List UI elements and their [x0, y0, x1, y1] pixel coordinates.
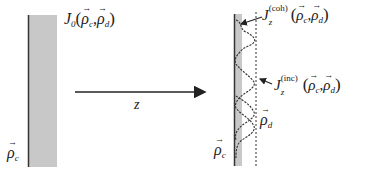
difference-coordinate-label: ρd — [260, 112, 272, 130]
source-position-label: ρc — [7, 145, 19, 163]
propagation-axis-label: z — [134, 98, 139, 112]
observation-plane — [234, 12, 256, 167]
incoherent-field-label: J(inc)z(ρc,ρd) — [274, 76, 341, 95]
source-plane — [28, 15, 57, 167]
source-field-label: J0(ρc,ρd) — [64, 10, 115, 29]
observation-position-label: ρc — [214, 142, 226, 160]
incoherent-pointer-arrow — [260, 79, 272, 84]
coherent-field-label: J(coh)z(ρc,ρd) — [262, 6, 329, 25]
coherent-pointer-arrow — [241, 17, 262, 24]
